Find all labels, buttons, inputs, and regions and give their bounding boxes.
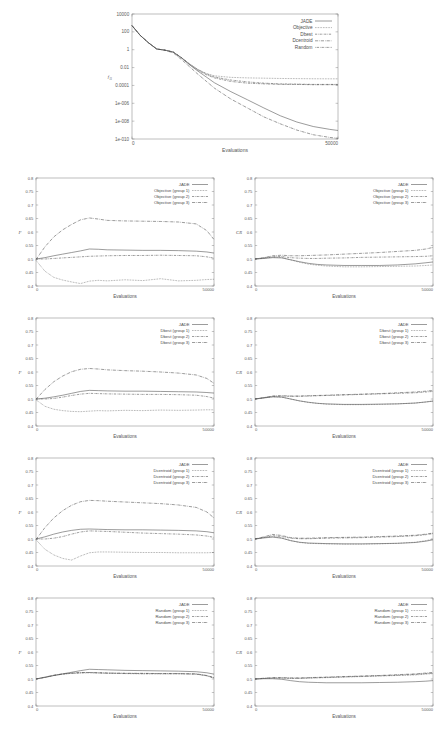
series-line-jade (255, 258, 433, 266)
y-tick-label: 0.7 (247, 623, 253, 628)
chart-panel-dcentroid-CR: 0.40.450.50.550.60.650.70.750.8050000Eva… (223, 450, 439, 590)
y-tick-label: 0.65 (25, 496, 34, 501)
y-tick-label: 0.55 (244, 663, 253, 668)
series-line-dbest-group-3- (36, 368, 214, 399)
x-tick-label: 0 (36, 707, 39, 712)
x-tick-label: 0 (255, 287, 258, 292)
legend-label: Objective (group 1) (373, 188, 409, 193)
legend-label: Objective (group 2) (154, 194, 190, 199)
y-axis-title: F (18, 650, 22, 655)
x-tick-label: 50000 (422, 287, 434, 292)
y-tick-label: 0.0001 (115, 83, 129, 88)
y-tick-label: 0.75 (25, 189, 34, 194)
y-tick-label: 0.5 (28, 677, 34, 682)
x-axis-title: Evaluations (332, 434, 356, 439)
legend-label: Objective (group 1) (154, 188, 190, 193)
legend-label: Random (group 2) (156, 614, 191, 619)
y-tick-label: 0.75 (25, 329, 34, 334)
legend-label: Objective (group 2) (373, 194, 409, 199)
y-tick-label: 0.4 (247, 564, 253, 569)
y-tick-label: 0.8 (247, 316, 253, 321)
y-tick-label: 0.55 (25, 383, 34, 388)
y-tick-label: 0.45 (244, 270, 253, 275)
legend-label: Dcentroid (group 3) (372, 480, 409, 485)
y-tick-label: 0.5 (28, 537, 34, 542)
y-tick-label: 0.8 (28, 316, 34, 321)
y-tick-label: 0.55 (25, 663, 34, 668)
y-tick-label: 0.7 (28, 483, 34, 488)
legend-label: JADE (398, 322, 409, 327)
series-line-random-group-3- (255, 673, 433, 679)
y-tick-label: 0.45 (25, 270, 34, 275)
legend-label: Dbest (group 3) (160, 340, 190, 345)
y-tick-label: 0.8 (247, 176, 253, 181)
legend-label: Dbest (group 2) (379, 334, 409, 339)
chart-panel-dbest-CR: 0.40.450.50.550.60.650.70.750.8050000Eva… (223, 310, 439, 450)
y-tick-label: 0.65 (25, 356, 34, 361)
y-tick-label: 0.4 (247, 284, 253, 289)
y-tick-label: 0.5 (28, 257, 34, 262)
y-tick-label: 0.75 (244, 609, 253, 614)
y-tick-label: 0.7 (28, 203, 34, 208)
series-line-objective-group-3- (255, 247, 433, 259)
dcentroid-F-plot: 0.40.450.50.550.60.650.70.750.8050000Eva… (4, 450, 220, 590)
y-tick-label: 0.6 (247, 370, 253, 375)
x-axis-title: Evaluations (332, 714, 356, 719)
y-tick-label: 0.4 (28, 704, 34, 709)
series-line-dbest-group-3- (255, 390, 433, 399)
y-tick-label: 0.45 (244, 410, 253, 415)
legend-label: JADE (179, 602, 190, 607)
legend-label: Objective (293, 25, 313, 30)
y-tick-label: 1e-006 (115, 101, 130, 106)
y-tick-label: 0.55 (25, 523, 34, 528)
y-tick-label: 10000 (116, 12, 129, 17)
legend-label: Objective (group 3) (154, 200, 190, 205)
y-tick-label: 0.45 (25, 550, 34, 555)
y-tick-label: 0.7 (28, 343, 34, 348)
y-tick-label: 0.55 (244, 523, 253, 528)
chart-panel-dcentroid-F: 0.40.450.50.550.60.650.70.750.8050000Eva… (4, 450, 220, 590)
y-tick-label: 0.7 (247, 343, 253, 348)
y-tick-label: 0.45 (25, 690, 34, 695)
legend-label: JADE (301, 19, 313, 24)
x-tick-label: 50000 (203, 287, 215, 292)
x-axis-title: Evaluations (113, 574, 137, 579)
chart-panel-objective-F: 0.40.450.50.550.60.650.70.750.8050000Eva… (4, 170, 220, 310)
random-F-plot: 0.40.450.50.550.60.650.70.750.8050000Eva… (4, 590, 220, 730)
legend-label: Dcentroid (group 1) (153, 468, 190, 473)
y-tick-label: 0.75 (244, 329, 253, 334)
x-tick-label: 0 (255, 707, 258, 712)
x-axis-title: Evaluations (113, 434, 137, 439)
y-axis-title: F (18, 230, 22, 235)
legend-label: JADE (398, 182, 409, 187)
x-tick-label: 50000 (325, 141, 338, 146)
chart-panel-convergence: 1000010010.010.00011e-0061e-0081e-010050… (96, 6, 344, 166)
y-tick-label: 0.55 (244, 383, 253, 388)
legend-label: Dbest (group 3) (379, 340, 409, 345)
y-tick-label: 0.4 (28, 424, 34, 429)
y-tick-label: 0.5 (247, 397, 253, 402)
y-tick-label: 0.5 (28, 397, 34, 402)
series-line-dbest-group-1- (255, 397, 433, 405)
y-tick-label: 0.55 (244, 243, 253, 248)
x-axis-title: Evaluations (332, 574, 356, 579)
x-tick-label: 50000 (203, 427, 215, 432)
legend-label: Random (295, 45, 313, 50)
dbest-F-plot: 0.40.450.50.550.60.650.70.750.8050000Eva… (4, 310, 220, 450)
y-tick-label: 0.8 (247, 596, 253, 601)
y-tick-label: 0.75 (25, 609, 34, 614)
x-tick-label: 0 (255, 427, 258, 432)
y-tick-label: 0.8 (28, 176, 34, 181)
y-tick-label: 1 (127, 47, 130, 52)
x-axis-title: Evaluations (113, 294, 137, 299)
series-line-jade (36, 390, 214, 399)
chart-panel-random-F: 0.40.450.50.550.60.650.70.750.8050000Eva… (4, 590, 220, 730)
y-tick-label: 0.75 (25, 469, 34, 474)
y-tick-label: 0.6 (28, 650, 34, 655)
convergence-plot: 1000010010.010.00011e-0061e-0081e-010050… (96, 6, 344, 166)
x-axis-title: Evaluations (113, 714, 137, 719)
legend-label: JADE (179, 182, 190, 187)
y-tick-label: 0.6 (28, 230, 34, 235)
legend-label: Dcentroid (group 1) (372, 468, 409, 473)
y-axis-title: CR (236, 230, 242, 235)
